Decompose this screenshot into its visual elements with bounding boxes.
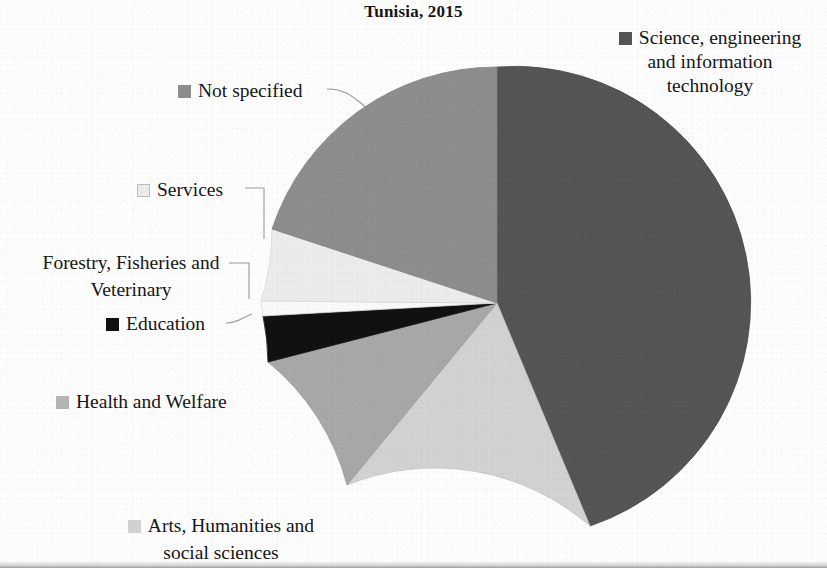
legend-swatch-services-icon bbox=[137, 184, 150, 197]
pie-slices bbox=[261, 66, 751, 526]
pie-label-not-specified[interactable]: Not specified bbox=[178, 79, 303, 103]
pie-label-education-text: Education bbox=[126, 313, 205, 334]
leader-line-education bbox=[226, 314, 252, 323]
pie-label-arts-humanities-social-sciences[interactable]: Arts, Humanities and social sciences bbox=[106, 512, 336, 566]
leader-line-services bbox=[245, 188, 264, 239]
legend-swatch-not-specified-icon bbox=[178, 85, 191, 98]
pie-label-services-text: Services bbox=[157, 179, 223, 200]
pie-label-education[interactable]: Education bbox=[106, 312, 205, 336]
pie-label-arts-line-1: Arts, Humanities and bbox=[148, 515, 314, 536]
pie-label-health-and-welfare[interactable]: Health and Welfare bbox=[56, 390, 227, 414]
legend-swatch-science-icon bbox=[619, 32, 632, 45]
pie-label-science-engineering-information-technology[interactable]: Science, engineering and information tec… bbox=[597, 26, 823, 98]
pie-label-science-line-3: technology bbox=[667, 75, 754, 96]
legend-swatch-education-icon bbox=[106, 318, 119, 331]
legend-swatch-arts-icon bbox=[128, 520, 141, 533]
pie-label-forestry-line-2: Veterinary bbox=[90, 279, 171, 300]
pie-label-forestry-fisheries-veterinary[interactable]: Forestry, Fisheries and Veterinary bbox=[28, 249, 234, 303]
pie-chart-figure: Tunisia, 2015 bbox=[0, 0, 827, 568]
pie-label-science-line-1: Science, engineering bbox=[639, 27, 801, 48]
pie-label-arts-line-2: social sciences bbox=[163, 542, 278, 563]
pie-label-science-line-2: and information bbox=[647, 51, 772, 72]
pie-label-services[interactable]: Services bbox=[137, 178, 223, 202]
legend-swatch-health-icon bbox=[56, 396, 69, 409]
leader-line-not-specified bbox=[327, 89, 368, 109]
pie-label-forestry-line-1: Forestry, Fisheries and bbox=[43, 252, 220, 273]
pie-label-not-specified-text: Not specified bbox=[198, 80, 303, 101]
pie-label-health-text: Health and Welfare bbox=[76, 391, 227, 412]
